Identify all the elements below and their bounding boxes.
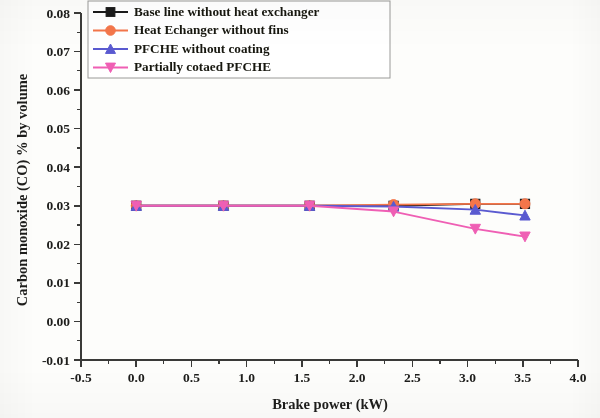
x-tick-label: 1.0 [238,370,255,385]
y-tick-label: 0.03 [46,198,70,213]
y-axis-ticks: 0.080.070.060.050.040.030.020.010.00-0.0… [42,6,81,368]
series-line [136,206,525,237]
x-tick-label: 2.0 [349,370,366,385]
y-tick-label: 0.07 [46,44,70,59]
y-tick-label: 0.05 [46,121,70,136]
x-tick-label: -0.5 [70,370,92,385]
chart-figure: -0.50.00.51.01.52.02.53.03.54.0 0.080.07… [0,0,600,418]
x-tick-label: 3.0 [459,370,476,385]
legend-item-label: Heat Echanger without fins [134,22,289,37]
x-tick-label: 0.0 [128,370,145,385]
y-tick-label: 0.08 [46,6,70,21]
legend-item-label: Partially cotaed PFCHE [134,59,271,74]
data-point-marker [520,199,530,209]
y-tick-label: 0.06 [46,83,70,98]
x-tick-label: 3.5 [514,370,531,385]
y-tick-label: 0.02 [46,237,70,252]
y-axis-title: Carbon monoxide (CO) % by volume [14,73,31,306]
x-tick-label: 1.5 [293,370,310,385]
x-tick-label: 4.0 [570,370,587,385]
legend-item-label: Base line without heat exchanger [134,4,319,19]
y-tick-label: -0.01 [42,353,70,368]
y-tick-label: 0.04 [46,160,70,175]
data-series-group [131,199,530,242]
x-axis-title: Brake power (kW) [272,396,388,413]
line-chart: -0.50.00.51.01.52.02.53.03.54.0 0.080.07… [0,0,600,418]
chart-legend: Base line without heat exchangerHeat Ech… [88,1,390,78]
data-point-marker [106,26,116,36]
y-tick-label: 0.01 [46,275,70,290]
data-point-marker [106,8,115,17]
y-tick-label: 0.00 [46,314,70,329]
x-tick-label: 2.5 [404,370,421,385]
x-axis-ticks: -0.50.00.51.01.52.02.53.03.54.0 [70,360,586,385]
legend-item-label: PFCHE without coating [134,41,270,56]
x-tick-label: 0.5 [183,370,200,385]
